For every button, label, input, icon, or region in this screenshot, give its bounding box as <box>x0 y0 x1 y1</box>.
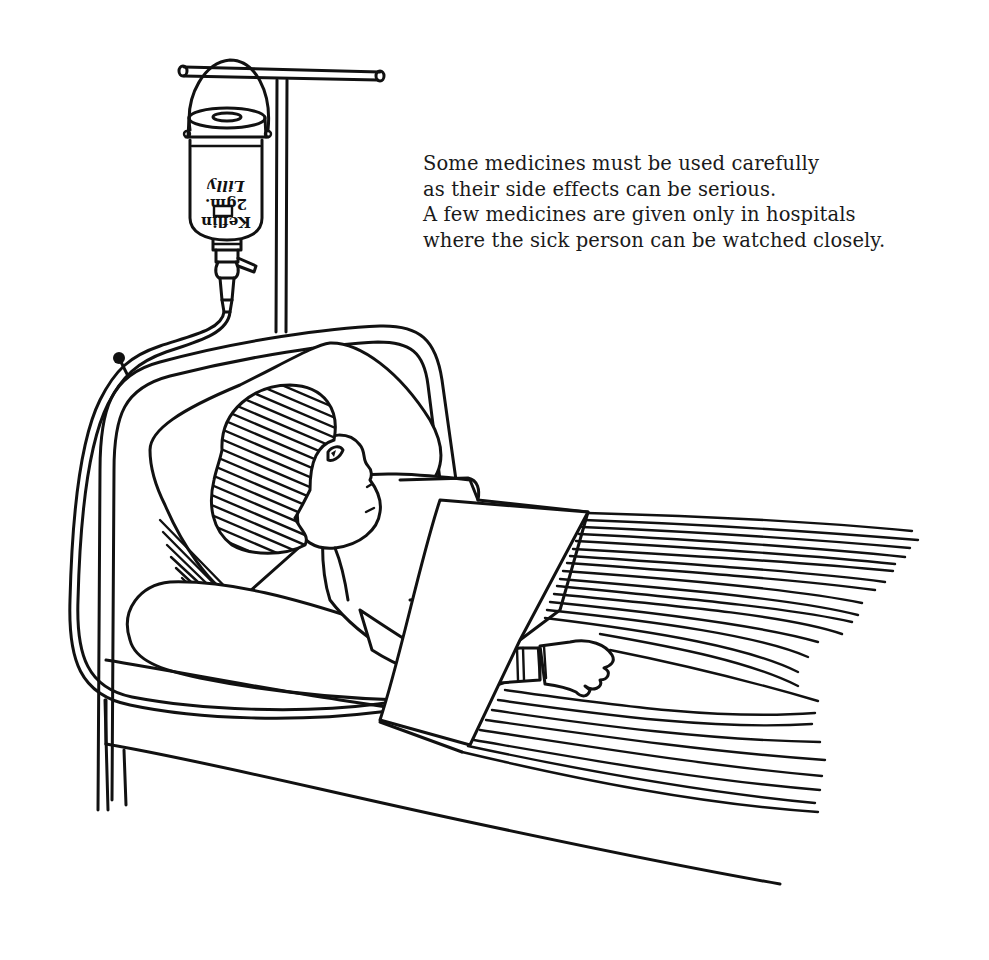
bottle-label: Keflin 2gm. Lilly <box>201 177 251 231</box>
caption-line: Some medicines must be used carefully <box>423 151 963 177</box>
caption-text: Some medicines must be used carefully as… <box>423 151 963 253</box>
hospital-iv-illustration: Keflin 2gm. Lilly <box>0 0 989 960</box>
iv-bottle: Keflin 2gm. Lilly <box>184 60 271 312</box>
label-dose: 2gm. <box>205 195 247 213</box>
label-maker: Lilly <box>207 177 246 195</box>
blanket <box>380 500 918 812</box>
caption-line: A few medicines are given only in hospit… <box>423 202 963 228</box>
caption-line: where the sick person can be watched clo… <box>423 228 963 254</box>
caption-line: as their side effects can be serious. <box>423 177 963 203</box>
